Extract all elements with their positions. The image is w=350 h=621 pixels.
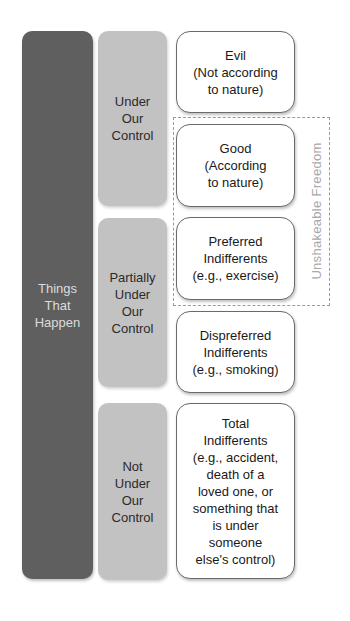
- value-good: Good (According to nature): [176, 124, 295, 207]
- value-dispreferred-indifferents: Dispreferred Indifferents (e.g., smoking…: [176, 311, 295, 393]
- root-box-things-that-happen: Things That Happen: [22, 31, 93, 579]
- value-evil: Evil (Not according to nature): [176, 31, 295, 113]
- category-not-under-our-control: Not Under Our Control: [98, 403, 167, 580]
- cropped-page-header: [12, 0, 172, 4]
- category-partially-under-our-control: Partially Under Our Control: [98, 218, 167, 387]
- unshakeable-freedom-label: Unshakeable Freedom: [309, 142, 324, 279]
- value-total-indifferents: Total Indifferents (e.g., accident, deat…: [176, 403, 295, 579]
- category-under-our-control: Under Our Control: [98, 31, 167, 206]
- value-preferred-indifferents: Preferred Indifferents (e.g., exercise): [176, 217, 295, 300]
